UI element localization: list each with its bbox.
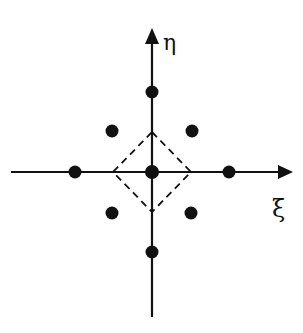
xi-axis-arrowhead-icon [278,165,293,179]
node-upper-right [186,125,199,138]
eta-axis-label: η [163,30,176,55]
node-left [69,166,82,179]
node-lower-right [185,207,198,220]
node-right [223,166,236,179]
node-upper-left [106,125,119,138]
node-bottom [146,246,159,259]
node-top [146,86,159,99]
node-lower-left [106,207,119,220]
xi-axis-label: ξ [272,195,285,223]
node-center [145,165,159,179]
lattice-diagram: η ξ [0,0,303,333]
eta-axis-arrowhead-icon [145,28,159,44]
